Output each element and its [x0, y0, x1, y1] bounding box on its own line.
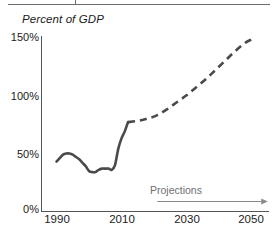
projections-label: Projections	[150, 184, 202, 196]
header-rule	[8, 4, 270, 5]
x-axis-line	[41, 211, 269, 212]
y-tick-label-100: 100%	[1, 90, 39, 102]
chart-figure: Percent of GDP 150% 100% 50% 0% 1990 201…	[0, 0, 276, 237]
series-projected-debt	[128, 39, 252, 122]
projections-arrow	[157, 199, 268, 205]
y-tick-label-0: 0%	[1, 203, 39, 215]
projections-arrow-head	[261, 199, 268, 205]
y-axis-line	[41, 36, 42, 212]
y-tick-label-150: 150%	[1, 31, 39, 43]
header-tick-mark	[75, 0, 76, 5]
x-tick-label-2010: 2010	[109, 213, 135, 225]
x-tick-label-2050: 2050	[238, 213, 264, 225]
projected-debt-line	[128, 39, 252, 122]
x-tick-label-1990: 1990	[44, 213, 70, 225]
y-tick-label-50: 50%	[1, 148, 39, 160]
historical-debt-line	[57, 122, 129, 172]
series-historical-debt	[57, 122, 129, 172]
x-tick-label-2030: 2030	[174, 213, 200, 225]
y-tick-labels: 150% 100% 50% 0%	[0, 0, 39, 237]
